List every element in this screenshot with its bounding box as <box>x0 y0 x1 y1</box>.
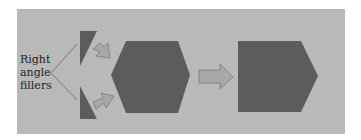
pointer-lines <box>51 44 77 100</box>
diagram-svg <box>0 0 361 140</box>
arrow-top-diagonal <box>93 43 110 58</box>
arrow-bottom-diagonal <box>93 93 114 109</box>
arrow-right <box>199 64 233 89</box>
hexagon <box>111 41 190 113</box>
pentagon <box>238 41 318 112</box>
